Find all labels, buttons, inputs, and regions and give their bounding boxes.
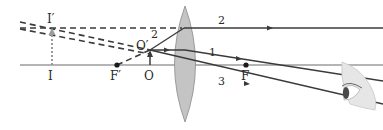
label-ray-2-left: 2 <box>151 28 158 41</box>
label-image-base: I <box>48 69 53 83</box>
image-arrow <box>49 28 56 65</box>
convex-lens <box>175 6 196 122</box>
label-object-base: O <box>144 69 154 83</box>
label-object-top: O′ <box>136 39 149 53</box>
label-focal-left: F′ <box>110 69 121 83</box>
eye-icon <box>342 62 376 110</box>
label-image-top: I′ <box>47 12 55 26</box>
focal-point-left <box>114 62 119 67</box>
label-ray-1: 1 <box>209 46 216 59</box>
ray-diagram: I′ I F′ O O′ F 2 2 1 3 <box>0 0 383 130</box>
label-ray-2-right: 2 <box>218 14 225 27</box>
label-focal-right: F <box>241 69 249 83</box>
focal-point-right <box>243 62 248 67</box>
label-ray-3: 3 <box>218 75 225 88</box>
